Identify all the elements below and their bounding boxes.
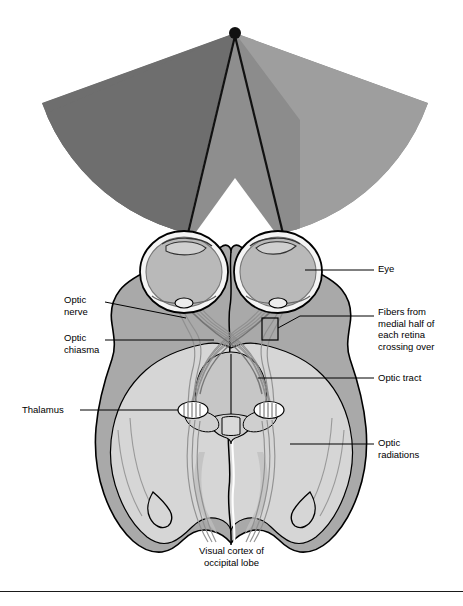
label-optic-tract: Optic tract (378, 372, 421, 384)
label-thalamus: Thalamus (22, 404, 64, 416)
medulla-structure (222, 417, 240, 436)
label-optic-chiasma: Optic chiasma (64, 332, 99, 355)
lgn-right (254, 402, 284, 419)
label-fibers-crossing: Fibers from medial half of each retina c… (378, 306, 435, 352)
bottom-divider-rule (0, 591, 463, 592)
lgn-left (178, 402, 208, 419)
figure-visual-pathway: Eye Fibers from medial half of each reti… (0, 0, 463, 606)
left-optic-disc (175, 298, 193, 308)
left-eye (140, 231, 228, 313)
right-optic-disc (269, 298, 287, 308)
label-eye: Eye (378, 263, 394, 275)
caption-line-2: occipital lobe (0, 557, 463, 569)
caption-line-1: Visual cortex of (0, 545, 463, 557)
right-eye (234, 231, 322, 313)
label-optic-nerve: Optic nerve (64, 294, 88, 317)
label-optic-radiations: Optic radiations (378, 437, 419, 460)
